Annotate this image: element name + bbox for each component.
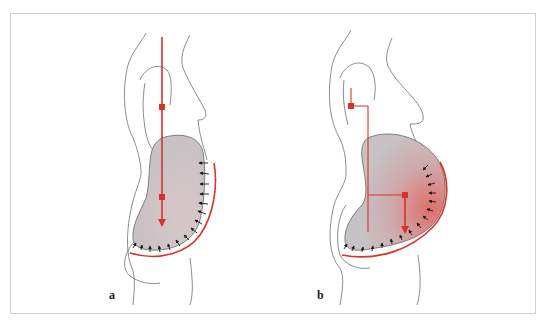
center-of-mass-marker-upper-a: [159, 104, 165, 110]
abdominal-mass-b: [345, 134, 445, 250]
panel-label-b: b: [317, 288, 324, 303]
figure-canvas: [0, 0, 547, 327]
panel-b: [329, 30, 446, 305]
center-of-mass-marker-upper-b: [348, 103, 354, 109]
center-of-mass-marker-lower-a: [159, 194, 165, 200]
center-of-mass-marker-lower-b: [402, 192, 408, 198]
abdominal-mass-a: [133, 135, 205, 250]
panel-label-a: a: [109, 288, 115, 303]
panel-a: [124, 33, 215, 305]
